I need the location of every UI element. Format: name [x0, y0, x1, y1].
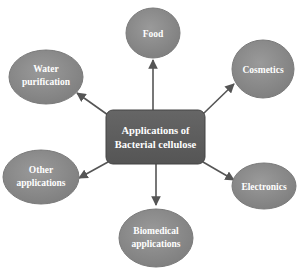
node-other: Other applications	[3, 150, 79, 204]
node-water: Water purification	[9, 50, 83, 104]
center-label-line-1: Applications of	[122, 125, 190, 136]
edge-electronics	[203, 162, 234, 180]
node-food: Food	[126, 8, 180, 58]
center-label-line-2: Bacterial cellulose	[115, 139, 197, 150]
node-biomedical: Biomedical applications	[119, 209, 193, 267]
edge-water	[77, 93, 108, 115]
node-cosmetics-label: Cosmetics	[242, 65, 283, 75]
center-node: Applications of Bacterial cellulose	[106, 110, 205, 164]
edge-other	[79, 162, 108, 178]
node-other-label-line-2: applications	[16, 178, 65, 188]
node-cosmetics: Cosmetics	[232, 40, 294, 98]
node-water-label-line-1: Water	[33, 64, 59, 74]
node-biomedical-label-line-1: Biomedical	[133, 226, 179, 236]
edge-cosmetics	[203, 84, 234, 114]
applications-diagram: Applications of Bacterial cellulose Food…	[0, 0, 306, 274]
node-electronics-label: Electronics	[241, 182, 287, 192]
node-water-label-line-2: purification	[22, 77, 71, 87]
node-food-label: Food	[143, 29, 164, 39]
node-other-label-line-1: Other	[29, 165, 54, 175]
node-biomedical-label-line-2: applications	[131, 239, 180, 249]
node-electronics: Electronics	[232, 163, 296, 209]
